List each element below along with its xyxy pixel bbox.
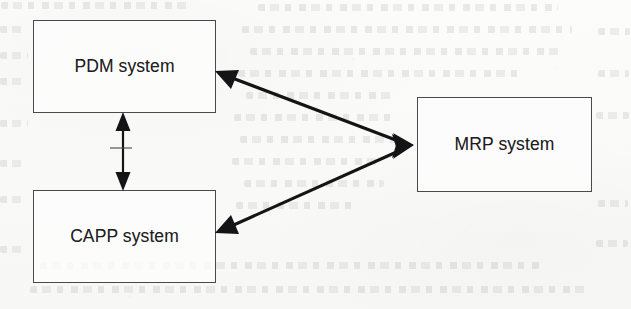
edge-capp-mrp[interactable] — [215, 142, 413, 234]
arrowhead-down-to-capp — [116, 172, 131, 191]
connector-layer — [0, 0, 631, 309]
diagram-canvas: PDM system CAPP system MRP system — [0, 0, 631, 309]
arrowhead-up-to-pdm — [116, 112, 131, 131]
edge-pdm-capp[interactable] — [116, 112, 131, 191]
edge-pdm-mrp[interactable] — [215, 70, 413, 150]
